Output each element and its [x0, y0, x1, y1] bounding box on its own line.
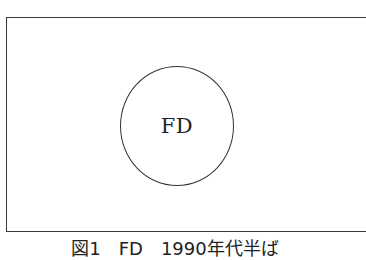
node-label: FD [161, 114, 193, 138]
fd-circle-node: FD [120, 66, 234, 186]
figure-caption: 図1 FD 1990年代半ば [0, 238, 350, 260]
